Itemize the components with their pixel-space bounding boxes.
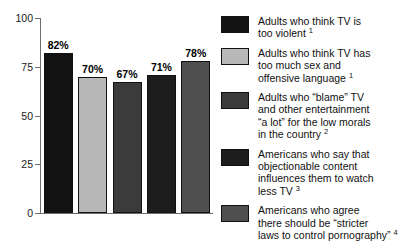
y-axis-tick-label: 25 xyxy=(1,159,33,169)
legend-item[interactable]: Adults who think TV hastoo much sex ando… xyxy=(221,47,405,84)
legend-color-swatch xyxy=(221,92,249,109)
y-axis-tick-label: 75 xyxy=(1,62,33,72)
bar-slot: 70% xyxy=(78,18,107,213)
y-axis-tick-label: 100 xyxy=(1,13,33,23)
y-axis-tick-mark xyxy=(35,164,40,165)
legend-item[interactable]: Adults who “blame” TVand other entertain… xyxy=(221,91,405,141)
bar-chart-figure: 1007550250 82%70%67%71%78% Adults who th… xyxy=(0,0,405,241)
legend-item[interactable]: Adults who think TV istoo violent 1 xyxy=(221,15,405,40)
plot-area: 1007550250 82%70%67%71%78% xyxy=(0,0,215,241)
legend-item[interactable]: Americans who say thatobjectionable cont… xyxy=(221,148,405,198)
legend-label-line: objectionable content xyxy=(258,160,357,172)
bar[interactable] xyxy=(44,53,73,213)
bar[interactable] xyxy=(78,77,107,214)
legend-label-line: in the country xyxy=(258,128,321,140)
chart-legend: Adults who think TV istoo violent 1Adult… xyxy=(221,15,405,241)
legend-item-label: Adults who think TV istoo violent 1 xyxy=(258,15,405,40)
legend-color-swatch xyxy=(221,205,249,222)
legend-label-line: laws to control pornography” xyxy=(258,229,391,241)
legend-label-line: less TV xyxy=(258,185,293,197)
bar-series: 82%70%67%71%78% xyxy=(41,18,213,213)
legend-color-swatch xyxy=(221,48,249,65)
bar-slot: 82% xyxy=(44,18,73,213)
bar[interactable] xyxy=(147,75,176,213)
bar-slot: 71% xyxy=(147,18,176,213)
legend-label-line: offensive language xyxy=(258,72,346,84)
legend-label-line: Americans who agree xyxy=(258,204,360,216)
legend-label-line: too violent xyxy=(258,27,306,39)
legend-item[interactable]: Americans who agreethere should be “stri… xyxy=(221,204,405,241)
legend-label-line: too much sex and xyxy=(258,59,341,71)
legend-item-label: Adults who think TV hastoo much sex ando… xyxy=(258,47,405,84)
legend-label-line: there should be “stricter xyxy=(258,217,368,229)
legend-label-line: Adults who think TV has xyxy=(258,47,370,59)
legend-footnote-marker: 1 xyxy=(309,26,313,35)
bar-value-label: 71% xyxy=(139,62,184,73)
legend-color-swatch xyxy=(221,16,249,33)
y-axis-tick-mark xyxy=(35,67,40,68)
y-axis-tick-mark xyxy=(35,213,40,214)
legend-footnote-marker: 4 xyxy=(393,228,397,237)
legend-label-line: “a lot” for the low morals xyxy=(258,116,371,128)
bar[interactable] xyxy=(113,82,142,213)
legend-label-line: Americans who say that xyxy=(258,148,369,160)
y-axis-tick-mark xyxy=(35,18,40,19)
bar[interactable] xyxy=(181,61,210,213)
bar-value-label: 82% xyxy=(36,40,81,51)
legend-label-line: influences them to watch xyxy=(258,172,374,184)
legend-label-line: Adults who “blame” TV xyxy=(258,91,364,103)
bar-value-label: 78% xyxy=(173,48,218,59)
legend-footnote-marker: 1 xyxy=(349,70,353,79)
legend-color-swatch xyxy=(221,149,249,166)
legend-footnote-marker: 2 xyxy=(324,127,328,136)
y-axis-tick-mark xyxy=(35,116,40,117)
legend-label-line: and other entertainment xyxy=(258,103,370,115)
legend-footnote-marker: 3 xyxy=(296,183,300,192)
legend-item-label: Americans who agreethere should be “stri… xyxy=(258,204,405,241)
y-axis-tick-label: 50 xyxy=(1,111,33,121)
y-axis-tick-label: 0 xyxy=(1,208,33,218)
legend-item-label: Adults who “blame” TVand other entertain… xyxy=(258,91,405,141)
x-axis-line xyxy=(40,213,213,214)
legend-item-label: Americans who say thatobjectionable cont… xyxy=(258,148,405,198)
bar-slot: 67% xyxy=(113,18,142,213)
bar-slot: 78% xyxy=(181,18,210,213)
